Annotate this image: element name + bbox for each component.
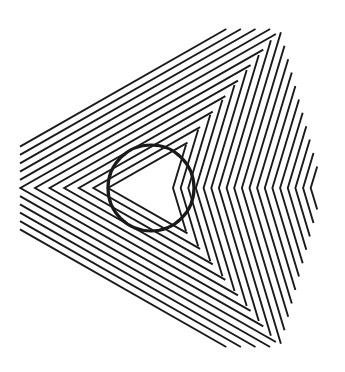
shallow-line-lower bbox=[20, 221, 241, 347]
shallow-line-lower bbox=[20, 196, 276, 342]
steep-chevron bbox=[303, 153, 313, 223]
shallow-line-upper bbox=[20, 34, 276, 180]
shallow-line-upper bbox=[20, 29, 256, 163]
steep-chevron bbox=[188, 115, 210, 262]
illusion-figure: Orbison-style illusion: circle over nest… bbox=[0, 0, 345, 372]
steep-chevron bbox=[311, 166, 318, 209]
illusion-canvas bbox=[0, 0, 345, 372]
steep-chevron bbox=[280, 113, 303, 263]
shallow-chevron-lines bbox=[20, 29, 276, 347]
shallow-line-upper bbox=[20, 29, 241, 155]
shallow-line-lower bbox=[20, 213, 256, 347]
